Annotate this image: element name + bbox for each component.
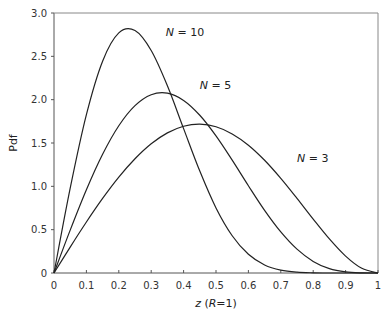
- curve-n-5: [54, 93, 378, 273]
- x-tick-label: 0.3: [143, 280, 159, 291]
- curve-n-10: [54, 29, 378, 273]
- y-axis-title: Pdf: [7, 133, 20, 152]
- y-tick-label: 2.0: [31, 94, 47, 105]
- x-tick-label: 0.2: [111, 280, 127, 291]
- y-tick-label: 0.5: [31, 224, 47, 235]
- x-tick-label: 0.8: [305, 280, 321, 291]
- y-tick-label: 1.5: [31, 138, 47, 149]
- series-label-n-3: N = 3: [297, 152, 328, 165]
- y-tick-label: 0: [41, 268, 47, 279]
- series-label-n-5: N = 5: [200, 79, 231, 92]
- x-tick-label: 0: [51, 280, 57, 291]
- x-tick-label: 0.6: [240, 280, 256, 291]
- pdf-line-chart: 00.10.20.30.40.50.60.70.80.91 00.51.01.5…: [0, 0, 391, 323]
- x-tick-label: 0.5: [208, 280, 224, 291]
- x-axis-title: z (R=1): [194, 297, 237, 310]
- series-curves: [54, 29, 378, 273]
- y-tick-label: 2.5: [31, 51, 47, 62]
- series-label-n-10: N = 10: [166, 26, 204, 39]
- x-tick-label: 0.1: [78, 280, 94, 291]
- y-tick-label: 1.0: [31, 181, 47, 192]
- y-tick-label: 3.0: [31, 8, 47, 19]
- x-tick-label: 0.9: [338, 280, 354, 291]
- y-axis-ticks: 00.51.01.52.02.53.0: [31, 8, 54, 279]
- x-tick-label: 0.4: [176, 280, 192, 291]
- x-tick-label: 1: [375, 280, 381, 291]
- x-tick-label: 0.7: [273, 280, 289, 291]
- curve-n-3: [54, 124, 378, 273]
- plot-frame: [54, 13, 378, 273]
